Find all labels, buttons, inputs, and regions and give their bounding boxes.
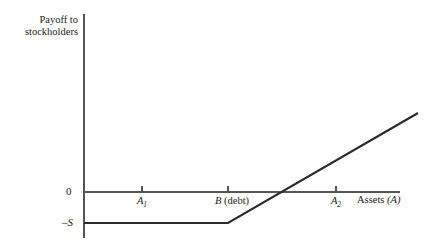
y-tick-label-negative-s: –S [62,216,73,229]
x-tick-label-a1-subscript: 1 [143,200,147,209]
y-axis-title-line1: Payoff to [39,14,78,25]
x-tick-label-b-debt: B (debt) [215,195,249,207]
x-axis-title-text: Assets [357,194,384,205]
payoff-diagram: Payoff to stockholders Assets (A) 0 –S A… [0,0,429,251]
x-tick-label-a2-subscript: 2 [337,200,341,209]
x-tick-label-a2: A2 [331,195,341,207]
y-tick-label-zero: 0 [66,185,72,198]
y-axis-title-line2: stockholders [25,26,78,37]
x-axis-title-symbol: (A) [387,194,400,205]
x-tick-label-a1: A1 [137,195,147,207]
x-tick-label-b-rest: (debt) [221,195,249,206]
y-axis-title: Payoff to stockholders [0,14,78,39]
payoff-to-stockholders-line [84,113,418,223]
x-axis-title: Assets (A) [357,194,400,206]
